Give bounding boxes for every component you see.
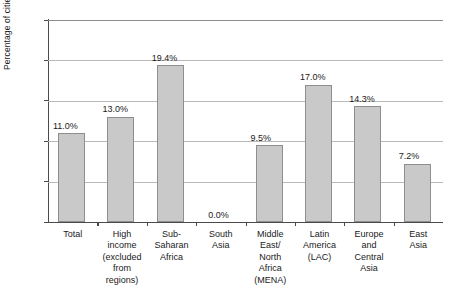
bars-layer: 11.0%13.0%19.4%0.0%9.5%17.0%14.3%7.2% bbox=[48, 20, 443, 222]
bar-value-label: 11.0% bbox=[53, 122, 113, 131]
bar-value-label: 17.0% bbox=[300, 73, 360, 82]
x-tick-mark bbox=[344, 222, 345, 226]
x-axis-category-line: Africa bbox=[239, 263, 301, 274]
x-tick-mark bbox=[196, 222, 197, 226]
y-axis-title: Percentage of cities bbox=[2, 0, 12, 70]
bar-chart: Percentage of cities 0510152025 11.0%13.… bbox=[0, 0, 458, 308]
x-axis-category-line: (MENA) bbox=[239, 275, 301, 286]
x-tick-mark bbox=[394, 222, 395, 226]
bar[interactable] bbox=[256, 145, 283, 222]
x-axis-category-line: Central bbox=[338, 252, 400, 263]
plot-area: 0510152025 11.0%13.0%19.4%0.0%9.5%17.0%1… bbox=[48, 20, 443, 222]
x-tick-mark bbox=[147, 222, 148, 226]
x-axis-category-label: EastAsia bbox=[387, 229, 449, 252]
x-tick-mark bbox=[97, 222, 98, 226]
bar[interactable] bbox=[305, 85, 332, 222]
bar-value-label: 7.2% bbox=[399, 152, 458, 161]
bar-value-label: 13.0% bbox=[102, 105, 162, 114]
bar[interactable] bbox=[58, 133, 85, 222]
x-axis-category-line: East bbox=[387, 229, 449, 240]
x-axis-labels: TotalHighincome(excludedfromregions)Sub-… bbox=[48, 229, 443, 305]
bar[interactable] bbox=[354, 106, 381, 222]
bar[interactable] bbox=[157, 65, 184, 222]
bar[interactable] bbox=[107, 117, 134, 222]
bar-value-label: 14.3% bbox=[349, 95, 409, 104]
bar-value-label: 9.5% bbox=[251, 134, 311, 143]
x-axis-category-line: Asia bbox=[387, 240, 449, 251]
x-axis-category-line: from bbox=[91, 263, 153, 274]
bar[interactable] bbox=[404, 164, 431, 222]
x-axis-category-line: regions) bbox=[91, 275, 153, 286]
x-tick-mark bbox=[246, 222, 247, 226]
x-axis-category-line: Asia bbox=[338, 263, 400, 274]
bar-value-label: 19.4% bbox=[152, 54, 212, 63]
x-axis-category-line: Africa bbox=[140, 252, 202, 263]
x-tick-mark bbox=[295, 222, 296, 226]
